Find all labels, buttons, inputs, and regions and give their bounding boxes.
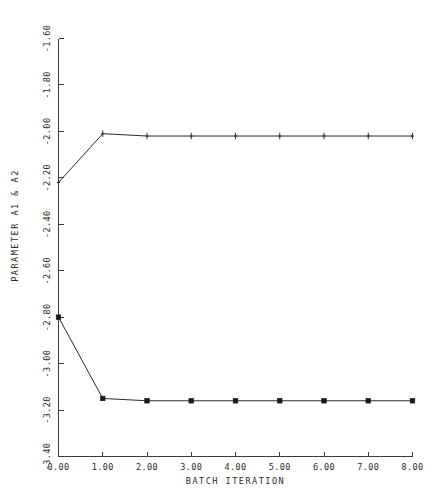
x-axis-tick-label: 2.00 <box>136 462 158 472</box>
data-point-marker-a2 <box>56 315 61 320</box>
x-axis-tick-label: 3.00 <box>180 462 202 472</box>
y-axis-tick-label: -2.40 <box>42 210 52 238</box>
data-point-marker-a2 <box>145 398 150 403</box>
data-point-marker-a2 <box>189 398 194 403</box>
x-axis-tick-label: 8.00 <box>401 462 423 472</box>
x-axis-tick-label: 6.00 <box>313 462 335 472</box>
data-point-marker-a2 <box>322 398 327 403</box>
x-axis-tick-label: 5.00 <box>269 462 291 472</box>
data-point-marker-a2 <box>277 398 282 403</box>
y-axis-tick-label: -3.20 <box>42 396 52 424</box>
data-point-marker-a2 <box>366 398 371 403</box>
y-axis-title: PARAMETER A1 & A2 <box>10 169 20 282</box>
chart-figure: -3.40-3.20-3.00-2.80-2.60-2.40-2.20-2.00… <box>0 0 434 492</box>
x-axis-tick-label: 0.00 <box>47 462 69 472</box>
line-chart-canvas: -3.40-3.20-3.00-2.80-2.60-2.40-2.20-2.00… <box>0 0 434 492</box>
y-axis-tick-label: -2.20 <box>42 164 52 192</box>
y-axis-tick-label: -1.60 <box>42 25 52 53</box>
y-axis-tick-label: -3.00 <box>42 350 52 378</box>
x-axis-title: BATCH ITERATION <box>186 476 285 486</box>
data-point-marker-a2 <box>233 398 238 403</box>
chart-background <box>0 0 434 492</box>
y-axis-tick-label: -2.60 <box>42 257 52 285</box>
y-axis-tick-label: -2.80 <box>42 303 52 331</box>
x-axis-tick-label: 1.00 <box>92 462 114 472</box>
y-axis-tick-label: -2.00 <box>42 118 52 146</box>
data-point-marker-a2 <box>100 396 105 401</box>
data-point-marker-a2 <box>410 398 415 403</box>
y-axis-tick-label: -1.80 <box>42 71 52 99</box>
x-axis-tick-label: 4.00 <box>224 462 246 472</box>
x-axis-tick-label: 7.00 <box>357 462 379 472</box>
